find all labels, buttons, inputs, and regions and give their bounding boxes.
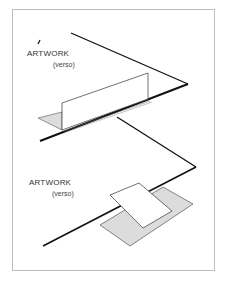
diagram-illustration	[0, 0, 228, 284]
upright-artwork-card	[62, 73, 148, 130]
shaded-base	[38, 112, 62, 130]
tick-mark	[38, 40, 40, 44]
top-verso-label: (verso)	[53, 61, 75, 68]
top-artwork-label: ARTWORK	[27, 49, 69, 58]
fold-line-upper	[71, 33, 188, 84]
bottom-verso-label: (verso)	[52, 190, 74, 197]
fold-line-upper-2	[117, 117, 196, 167]
bottom-artwork-label: ARTWORK	[29, 178, 71, 187]
